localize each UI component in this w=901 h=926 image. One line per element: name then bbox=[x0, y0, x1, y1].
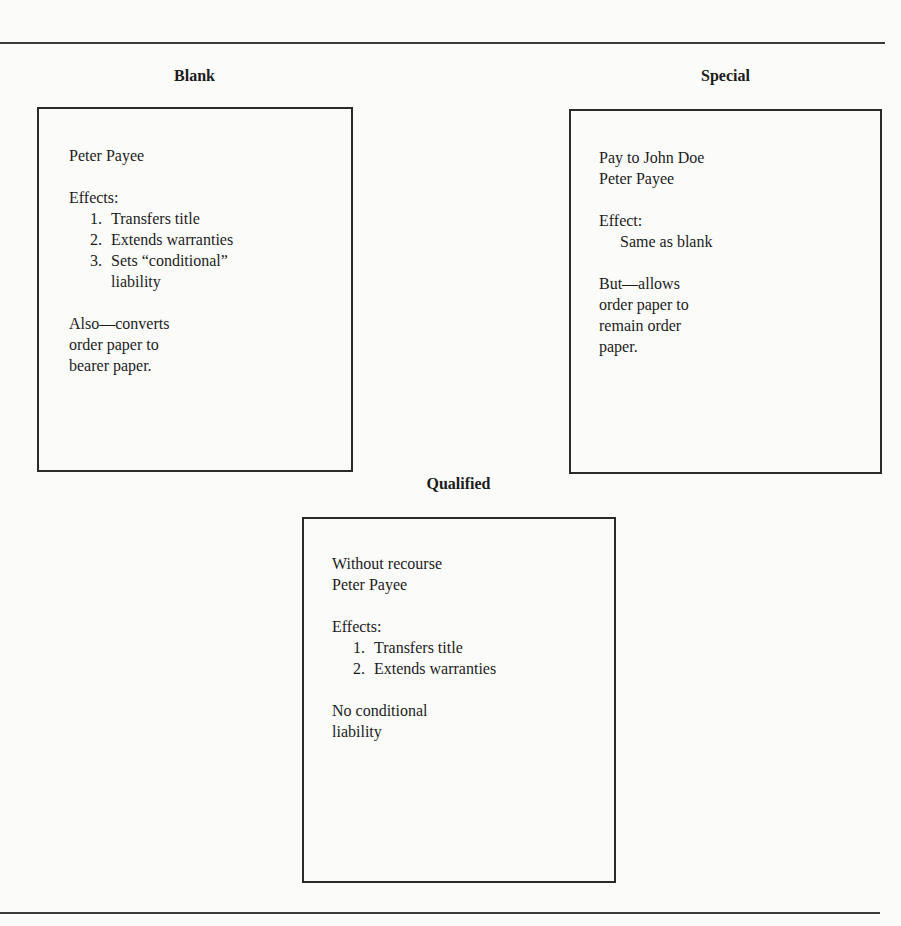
special-effect-text: Same as blank bbox=[599, 231, 712, 252]
list-item: 2. Extends warranties bbox=[353, 658, 496, 679]
qualified-effects-list: 1. Transfers title 2. Extends warranties bbox=[332, 637, 496, 679]
special-endorsement-box: Pay to John Doe Peter Payee Effect: Same… bbox=[569, 109, 882, 474]
special-note: But—allows order paper to remain order p… bbox=[599, 273, 712, 357]
bottom-rule bbox=[0, 912, 880, 914]
qualified-effects-label: Effects: bbox=[332, 616, 496, 637]
list-item: 1. Transfers title bbox=[353, 637, 496, 658]
blank-note: Also—converts order paper to bearer pape… bbox=[69, 313, 233, 376]
list-item: 3. Sets “conditional” liability bbox=[90, 250, 233, 292]
list-item: 2. Extends warranties bbox=[90, 229, 233, 250]
qualified-endorsement-box: Without recourse Peter Payee Effects: 1.… bbox=[302, 517, 616, 883]
special-signature: Peter Payee bbox=[599, 168, 712, 189]
special-instruction: Pay to John Doe bbox=[599, 147, 712, 168]
qualified-note: No conditional liability bbox=[332, 700, 496, 742]
top-rule bbox=[0, 42, 885, 44]
blank-signature: Peter Payee bbox=[69, 145, 233, 166]
list-item: 1. Transfers title bbox=[90, 208, 233, 229]
special-effect-label: Effect: bbox=[599, 210, 712, 231]
blank-effects-list: 1. Transfers title 2. Extends warranties… bbox=[69, 208, 233, 292]
blank-endorsement-box: Peter Payee Effects: 1. Transfers title … bbox=[37, 107, 353, 472]
qualified-heading: Qualified bbox=[302, 475, 615, 493]
blank-effects-label: Effects: bbox=[69, 187, 233, 208]
blank-heading: Blank bbox=[37, 67, 352, 85]
qualified-instruction: Without recourse bbox=[332, 553, 496, 574]
special-heading: Special bbox=[569, 67, 882, 85]
qualified-signature: Peter Payee bbox=[332, 574, 496, 595]
